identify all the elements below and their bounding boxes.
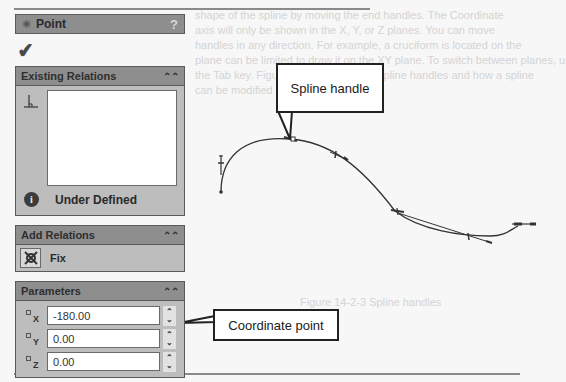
- add-relations-header[interactable]: Add Relations ⌃⌃: [16, 226, 184, 245]
- point-star-icon: ✳: [22, 18, 31, 31]
- help-icon[interactable]: ?: [170, 17, 178, 32]
- spline-handle-callout-pointer: [278, 111, 292, 139]
- double-chevron-up-icon[interactable]: ⌃⌃: [163, 286, 179, 297]
- spin-down-icon: ⌄: [166, 362, 173, 370]
- spin-down-icon: ⌄: [166, 316, 173, 324]
- pm-title-bar: ✳ Point ?: [15, 14, 185, 34]
- handle-tick: [335, 151, 336, 158]
- x-coordinate-icon: X: [16, 305, 47, 327]
- x-coordinate-input[interactable]: [47, 306, 160, 325]
- group-title: Existing Relations: [21, 70, 116, 82]
- double-chevron-up-icon[interactable]: ⌃⌃: [163, 71, 179, 82]
- spline-curve[interactable]: [221, 139, 518, 236]
- group-title: Add Relations: [21, 229, 95, 241]
- y-coordinate-input[interactable]: [47, 329, 160, 348]
- param-row-y: Y ⌃⌄: [16, 327, 184, 350]
- fix-anchor-icon[interactable]: [20, 248, 41, 268]
- spin-down-icon: ⌄: [166, 339, 173, 347]
- z-coordinate-input[interactable]: [47, 352, 160, 371]
- fix-relation-button[interactable]: Fix: [16, 245, 184, 271]
- definition-status: i Under Defined: [24, 192, 137, 207]
- perpendicular-relation-icon: [23, 94, 39, 110]
- info-icon: i: [24, 192, 39, 207]
- z-coordinate-icon: Z: [16, 351, 47, 373]
- existing-relations-header[interactable]: Existing Relations ⌃⌃: [16, 67, 184, 86]
- x-spinner[interactable]: ⌃⌄: [163, 306, 176, 326]
- existing-relations-group: Existing Relations ⌃⌃ i Under Defined: [15, 66, 185, 216]
- double-chevron-up-icon[interactable]: ⌃⌃: [163, 230, 179, 241]
- callout-label: Coordinate point: [228, 318, 323, 333]
- coordinate-point-callout: Coordinate point: [213, 309, 339, 341]
- add-relations-group: Add Relations ⌃⌃ Fix: [15, 225, 185, 272]
- y-spinner[interactable]: ⌃⌄: [163, 329, 176, 349]
- spline-handle-callout: Spline handle: [276, 63, 384, 113]
- callout-label: Spline handle: [291, 81, 370, 96]
- param-row-x: X ⌃⌄: [16, 304, 184, 327]
- tangent-line: [398, 213, 492, 243]
- z-spinner[interactable]: ⌃⌄: [163, 352, 176, 372]
- parameters-header[interactable]: Parameters ⌃⌃: [16, 282, 184, 301]
- handle-point: [291, 137, 295, 141]
- parameters-group: Parameters ⌃⌃ X ⌃⌄ Y ⌃⌄ Z ⌃⌄: [15, 281, 185, 378]
- point-property-manager: ✳ Point ? ✔ Existing Relations ⌃⌃ i Unde…: [15, 14, 185, 382]
- param-row-z: Z ⌃⌄: [16, 350, 184, 373]
- y-coordinate-icon: Y: [16, 328, 47, 350]
- ok-row: ✔: [15, 34, 185, 66]
- spline-start-point[interactable]: [219, 190, 223, 194]
- status-text: Under Defined: [55, 193, 137, 207]
- handle-tick: [397, 208, 398, 215]
- checkmark-icon[interactable]: ✔: [16, 37, 35, 62]
- handle-arrow: [486, 241, 492, 243]
- handle-tick: [468, 233, 469, 240]
- pm-title: Point: [36, 17, 66, 31]
- fix-label: Fix: [50, 252, 66, 264]
- existing-relations-list[interactable]: [47, 90, 177, 186]
- group-title: Parameters: [21, 285, 81, 297]
